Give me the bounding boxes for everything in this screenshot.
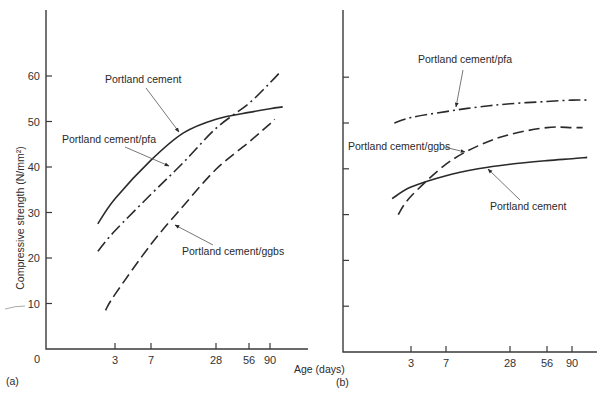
panel-a: 102030405060 37285690 0 Compressive stre…	[5, 10, 308, 387]
x-tick-label: 3	[408, 357, 414, 369]
figure-canvas: 102030405060 37285690 0 Compressive stre…	[0, 0, 609, 401]
curve-portland-cement	[98, 107, 283, 224]
panel-a-label: (a)	[6, 375, 19, 387]
curve-portland-cement	[392, 157, 587, 198]
panel-a-y-ticks: 102030405060	[28, 70, 52, 310]
annotation-arrow	[456, 70, 463, 107]
panel-b-curves	[392, 100, 587, 215]
x-axis-label: Age (days)	[294, 363, 345, 375]
curve-portland-cement-pfa	[394, 100, 587, 123]
annotation-label: Portland cement/pfa	[418, 53, 512, 65]
curve-portland-cement-pfa	[98, 71, 281, 251]
y-tick-label: 10	[28, 298, 40, 310]
panel-b-x-ticks: 37285690	[408, 346, 578, 369]
x-tick-label: 56	[243, 354, 255, 366]
x-tick-label: 3	[112, 354, 118, 366]
x-tick-label: 90	[566, 357, 578, 369]
y-axis-label: Compressive strength (N/mm²)	[14, 146, 26, 290]
origin-label: 0	[34, 353, 40, 365]
annotation-arrow	[488, 169, 520, 200]
annotation-label: Portland cement/ggbs	[348, 140, 450, 152]
y-tick-label: 20	[28, 252, 40, 264]
panel-a-axes	[46, 10, 308, 349]
panel-a-x-ticks: 37285690	[112, 343, 276, 366]
y-tick-label: 60	[28, 70, 40, 82]
annotation-arrow	[175, 225, 213, 245]
x-tick-label: 56	[541, 357, 553, 369]
panel-a-curves	[98, 71, 283, 310]
stray-mark	[5, 306, 25, 309]
annotation-label: Portland cement	[105, 73, 182, 85]
annotation-label: Portland cement/ggbs	[182, 245, 284, 257]
annotation-label: Portland cement/pfa	[62, 133, 156, 145]
panel-b-annotations: Portland cement/pfaPortland cement/ggbsP…	[348, 53, 567, 212]
y-tick-label: 40	[28, 161, 40, 173]
x-tick-label: 28	[504, 357, 516, 369]
y-tick-label: 30	[28, 207, 40, 219]
x-tick-label: 7	[443, 357, 449, 369]
x-tick-label: 28	[210, 354, 222, 366]
annotation-arrow	[146, 88, 179, 132]
x-tick-label: 90	[264, 354, 276, 366]
y-tick-label: 50	[28, 116, 40, 128]
panel-b-y-ticks	[343, 77, 349, 306]
x-tick-label: 7	[148, 354, 154, 366]
panel-a-annotations: Portland cementPortland cement/pfaPortla…	[62, 73, 284, 257]
annotation-label: Portland cement	[490, 200, 567, 212]
panel-b: 37285690 (b) Portland cement/pfaPortland…	[336, 10, 597, 388]
panel-b-label: (b)	[336, 376, 349, 388]
